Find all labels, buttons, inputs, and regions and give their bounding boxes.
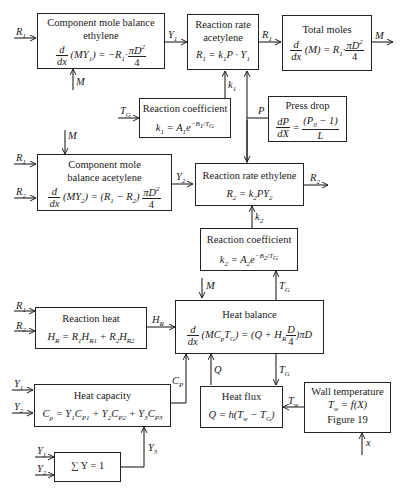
block-total-moles: Total moles ddx (M) = R1·πD24 xyxy=(282,15,372,71)
block-equation: ddx (MY2) = (R1 − R2) πD24 xyxy=(38,186,171,210)
block-equation: HR = R1HR1 + R2HR2 xyxy=(36,331,146,345)
signal-label-y2: Y2 xyxy=(176,171,185,185)
block-reaction-heat: Reaction heat HR = R1HR1 + R2HR2 xyxy=(35,307,147,349)
block-equation: Q = h(Tw − TG) xyxy=(201,409,282,423)
signal-label-y3: Y3 xyxy=(148,442,157,456)
signal-label-r1: R1 xyxy=(262,29,272,43)
block-equation: Cp = Y1CP1 + Y2CP2 + Y3CP3 xyxy=(35,408,170,422)
block-heat-capacity: Heat capacity Cp = Y1CP1 + Y2CP2 + Y3CP3 xyxy=(34,384,171,427)
signal-label-y2: Y2 xyxy=(14,401,23,415)
signal-label-m: M xyxy=(206,280,215,291)
signal-label-y1: Y1 xyxy=(14,378,23,392)
block-reaction-rate-ethylene: Reaction rate ethylene R2 = k2PY2 xyxy=(195,163,304,206)
block-title: Heat balance xyxy=(176,309,323,322)
signal-label-r1: R1 xyxy=(16,26,26,40)
block-title: Reaction heat xyxy=(36,313,146,326)
signal-label-m: M xyxy=(76,76,85,87)
block-equation: ddx (M) = R1·πD24 xyxy=(283,39,371,63)
signal-label-r2: R2 xyxy=(310,172,320,186)
signal-label-r1: R1 xyxy=(16,300,26,314)
block-title: Reaction coefficient xyxy=(201,234,297,247)
block-subtitle: ethylene xyxy=(38,30,164,43)
signal-label-r2: R2 xyxy=(16,320,26,334)
block-heat-balance: Heat balance ddx (MCpTG) = (Q + HRD4)πD xyxy=(175,300,324,354)
block-equation: ddx (MY1) = −R1·πD24 xyxy=(38,44,164,68)
block-equation: ∑ Y = 1 xyxy=(55,460,120,473)
block-mole-balance-acetylene: Component mole balance acetylene ddx (MY… xyxy=(37,154,172,211)
block-title: Heat flux xyxy=(201,391,282,404)
signal-label-r2: R2 xyxy=(16,186,26,200)
signal-label-k2: k2 xyxy=(255,211,263,225)
signal-label-tg: TG xyxy=(279,364,290,378)
block-mole-balance-ethylene: Component mole balance ethylene ddx (MY1… xyxy=(37,13,165,69)
block-equation: k2 = A2e−B2/TG xyxy=(201,252,297,268)
signal-label-hr: HR xyxy=(152,314,164,328)
block-title: Reaction coefficient xyxy=(140,103,230,116)
signal-label-p: P xyxy=(258,105,264,116)
signal-label-tg: TG xyxy=(279,280,290,294)
block-equation: k1 = A1e−B1/TG xyxy=(140,120,230,136)
block-press-drop: Press drop dPdX = (P0 − 1)L xyxy=(268,96,347,142)
block-title: Reaction rate xyxy=(188,19,258,32)
block-reaction-coefficient-2: Reaction coefficient k2 = A2e−B2/TG xyxy=(200,228,298,271)
block-sum-y: ∑ Y = 1 xyxy=(54,452,121,482)
block-title: Total moles xyxy=(283,24,371,37)
signal-label-k1: k1 xyxy=(228,79,236,93)
block-reaction-coefficient-1: Reaction coefficient k1 = A1e−B1/TG xyxy=(139,98,231,138)
block-wall-temperature: Wall temperature Tw = f(X) Figure 19 xyxy=(304,382,391,433)
block-equation: dPdX = (P0 − 1)L xyxy=(269,115,346,141)
block-heat-flux: Heat flux Q = h(Tw − TG) xyxy=(200,386,283,428)
signal-label-cp: CP xyxy=(172,375,183,389)
block-title: Component mole xyxy=(38,159,171,172)
signal-label-tw: Tw xyxy=(288,395,299,409)
block-title: Wall temperature xyxy=(305,386,390,399)
signal-label-r1: R1 xyxy=(16,152,26,166)
signal-label-y2: Y2 xyxy=(37,463,46,477)
signal-label-tg: TG xyxy=(120,105,131,119)
block-equation: Tw = f(X) xyxy=(305,399,390,413)
block-subtitle: acetylene xyxy=(188,32,258,45)
block-equation: ddx (MCpTG) = (Q + HRD4)πD xyxy=(176,324,323,347)
block-title: Component mole balance xyxy=(38,17,164,30)
block-subtitle: balance acetylene xyxy=(38,172,171,185)
signal-label-q: Q xyxy=(214,364,222,375)
block-title: Reaction rate ethylene xyxy=(196,170,303,183)
block-reaction-rate-acetylene: Reaction rate acetylene R1 = k1P · Y1 xyxy=(187,14,259,70)
block-equation: R1 = k1P · Y1 xyxy=(188,49,258,63)
signal-label-m: M xyxy=(375,30,384,41)
signal-label-y1: Y1 xyxy=(168,29,177,43)
signal-label-y1: Y1 xyxy=(37,445,46,459)
signal-label-m: M xyxy=(68,130,77,141)
block-note: Figure 19 xyxy=(305,414,390,427)
block-equation: R2 = k2PY2 xyxy=(196,188,303,202)
signal-label-x: x xyxy=(366,437,371,448)
block-title: Press drop xyxy=(269,100,346,113)
block-title: Heat capacity xyxy=(35,390,170,403)
